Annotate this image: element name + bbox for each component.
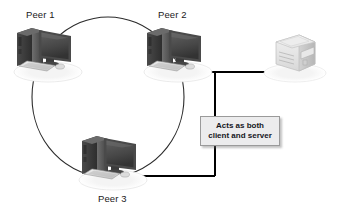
callout-line-2: client and server — [208, 131, 272, 141]
peer1-computer-icon — [14, 28, 82, 82]
diagram-graphics-layer — [0, 0, 337, 217]
peer3-computer-icon — [79, 136, 147, 190]
network-printer-icon — [264, 35, 326, 82]
callout-line-1: Acts as both — [216, 121, 264, 131]
diagram-canvas: Peer 1 Peer 2 Peer 3 Acts as both client… — [0, 0, 337, 217]
node-label-peer2: Peer 2 — [158, 9, 187, 20]
node-label-peer3: Peer 3 — [98, 193, 127, 204]
node-label-peer1: Peer 1 — [26, 9, 55, 20]
peer2-computer-icon — [144, 28, 212, 82]
callout-box: Acts as both client and server — [200, 116, 280, 146]
